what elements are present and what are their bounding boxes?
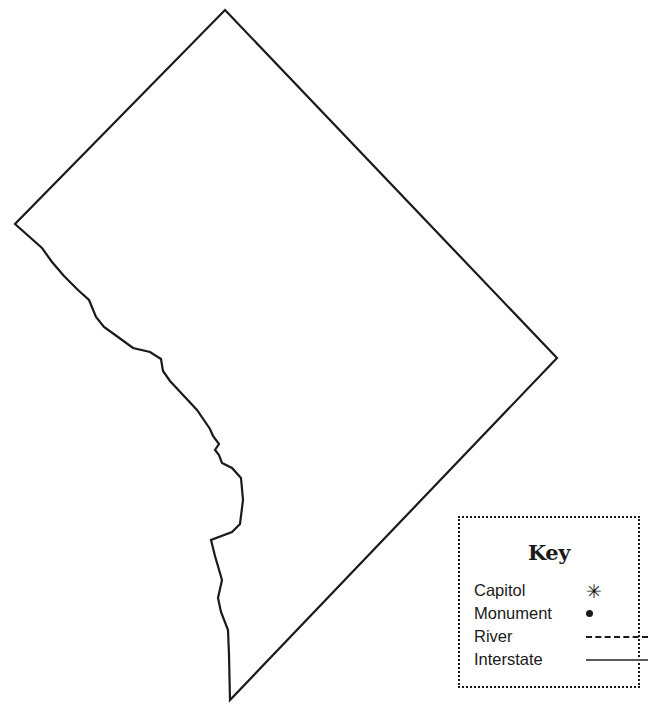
legend-title: Key — [460, 540, 638, 565]
legend-symbol-capitol: ✳ — [582, 579, 630, 602]
dashed-line-symbol-icon — [586, 636, 648, 638]
legend-row-capitol: Capitol ✳ — [474, 579, 630, 602]
legend-rows: Capitol ✳ Monument River Interstate — [460, 579, 638, 671]
legend-symbol-interstate — [582, 648, 648, 671]
asterisk-symbol-icon: ✳ — [586, 582, 602, 601]
legend-row-interstate: Interstate — [474, 648, 630, 671]
filled-dot-symbol-icon — [586, 610, 593, 617]
legend-label-river: River — [474, 628, 582, 645]
legend-label-monument: Monument — [474, 605, 582, 622]
legend-label-capitol: Capitol — [474, 582, 582, 599]
solid-line-symbol-icon — [586, 659, 648, 661]
legend-row-monument: Monument — [474, 602, 630, 625]
legend-label-interstate: Interstate — [474, 651, 582, 668]
legend-symbol-river — [582, 625, 648, 648]
legend-symbol-monument — [582, 602, 630, 625]
map-legend: Key Capitol ✳ Monument River — [458, 516, 640, 688]
legend-row-river: River — [474, 625, 630, 648]
